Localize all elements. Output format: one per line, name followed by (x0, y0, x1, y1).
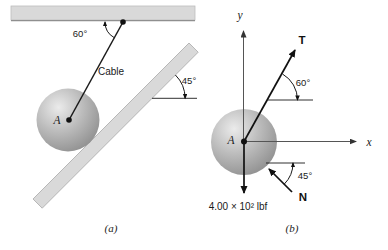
tension-angle-label: 60° (296, 77, 311, 88)
sphere-a-center-dot (66, 117, 72, 123)
normal-angle-arc (284, 163, 293, 184)
x-axis-label: x (365, 136, 372, 148)
normal-vector-label: N (299, 191, 307, 203)
cable-anchor-dot (120, 19, 126, 25)
panel-a: 60° Cable 45° A (a) (11, 6, 198, 235)
y-axis-label: y (236, 9, 243, 22)
panel-b: y x 60° 45° T 4.00 × 10² lbf N A (b) (209, 9, 373, 235)
point-a-label: A (52, 114, 61, 126)
cable-angle-arc (105, 22, 114, 38)
cable-text-label: Cable (98, 66, 125, 77)
panel-a-caption: (a) (105, 222, 118, 235)
incline-angle-label: 45° (182, 75, 197, 86)
normal-vector (269, 169, 292, 192)
tension-vector-label: T (298, 34, 305, 46)
panel-b-caption: (b) (286, 222, 299, 235)
normal-angle-label: 45° (298, 170, 313, 181)
sphere-b-center-dot (241, 139, 247, 145)
point-a-label-b: A (226, 134, 235, 146)
figure-canvas: 60° Cable 45° A (a) y x 60° 45° T 4. (0, 0, 388, 250)
physics-figure: 60° Cable 45° A (a) y x 60° 45° T 4. (0, 0, 388, 250)
cable-angle-label: 60° (73, 28, 88, 39)
ceiling-bar (11, 6, 195, 20)
weight-value-label: 4.00 × 10² lbf (209, 201, 268, 212)
